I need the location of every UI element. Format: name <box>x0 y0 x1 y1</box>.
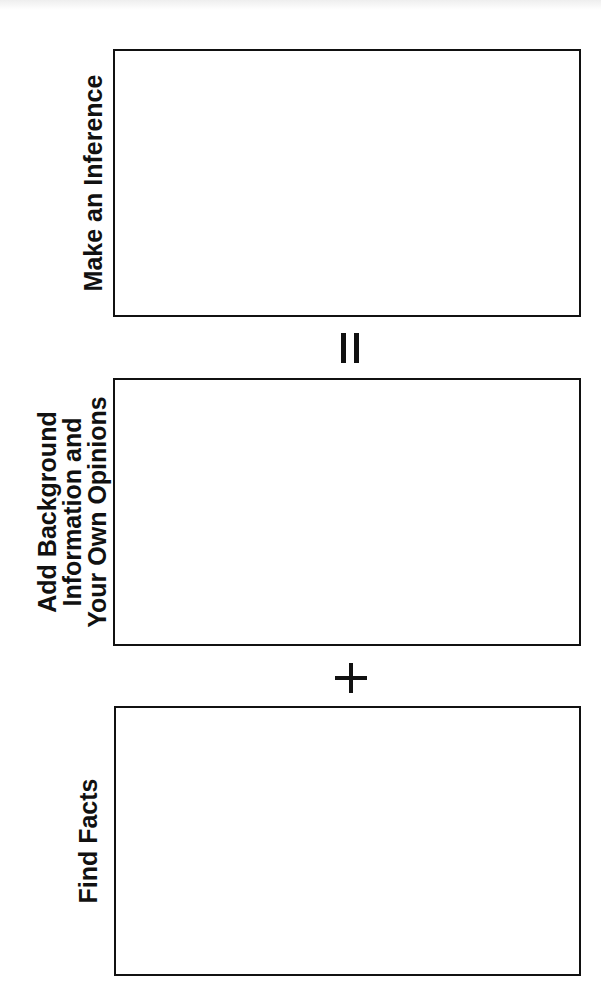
answer-box-inference[interactable] <box>113 49 581 317</box>
label-text: Make an Inference <box>81 75 106 292</box>
equals-bar <box>354 333 359 363</box>
plus-shape <box>335 663 367 693</box>
label-line-1: Add Background <box>35 396 60 627</box>
plus-sign-icon <box>333 661 369 695</box>
equals-sign-icon <box>330 330 370 366</box>
label-line-3: Your Own Opinions <box>85 396 110 627</box>
label-line-2: Information and <box>60 396 85 627</box>
label-make-an-inference: Make an Inference <box>77 43 109 323</box>
answer-box-background[interactable] <box>113 378 581 646</box>
label-find-facts: Find Facts <box>72 701 104 981</box>
label-text: Find Facts <box>76 779 101 904</box>
label-background-and-opinions: Add Background Information and Your Own … <box>30 372 114 652</box>
answer-box-facts[interactable] <box>114 706 581 976</box>
scan-edge <box>0 0 601 10</box>
equals-bar <box>341 333 346 363</box>
